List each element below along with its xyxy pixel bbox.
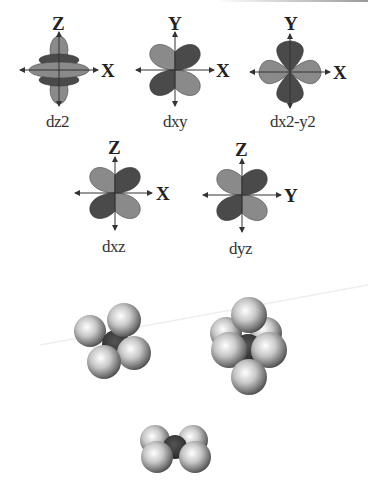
dyz-orbital-icon <box>203 159 281 232</box>
dx2-y2-orbital-icon <box>250 34 330 108</box>
dyz-name-label: dyz <box>229 240 252 257</box>
dyz-horizontal-axis-label: Y <box>284 186 298 205</box>
diagram-canvas <box>0 0 368 487</box>
dz2-orbital-icon <box>20 32 98 106</box>
dz2-horizontal-axis-label: X <box>101 61 115 80</box>
dxy-orbital-icon <box>136 32 214 106</box>
dxy-vertical-axis-label: Y <box>168 14 182 33</box>
dxz-vertical-axis-label: Z <box>108 138 121 157</box>
dz2-vertical-axis-label: Z <box>52 14 65 33</box>
dxz-orbital-icon <box>75 157 152 230</box>
dyz-vertical-axis-label: Z <box>235 140 248 159</box>
dxy-horizontal-axis-label: X <box>216 61 230 80</box>
dx2-y2-horizontal-axis-label: X <box>333 63 347 82</box>
tetrahedral-molecule-icon <box>74 303 151 379</box>
dxz-horizontal-axis-label: X <box>156 184 170 203</box>
square-planar-molecule-icon <box>140 425 211 473</box>
dx2-y2-name-label: dx2-y2 <box>270 113 315 130</box>
dxz-name-label: dxz <box>102 238 125 255</box>
dz2-name-label: dz2 <box>46 113 69 130</box>
dx2-y2-vertical-axis-label: Y <box>284 14 298 33</box>
dxy-name-label: dxy <box>163 113 187 130</box>
